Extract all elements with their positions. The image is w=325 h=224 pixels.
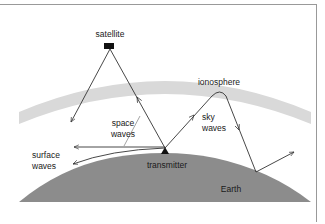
transmitter-label: transmitter [147, 160, 187, 170]
ionosphere-label: ionosphere [198, 77, 240, 87]
space-waves-label-2: waves [110, 129, 135, 139]
propagation-diagram: satellite ionosphere space waves sky wav… [0, 0, 325, 224]
sky-wave-bounce [256, 152, 294, 172]
sky-wave-down [226, 96, 256, 172]
surface-waves-label-1: surface [32, 150, 60, 160]
sky-waves-label-2: waves [201, 123, 226, 133]
satellite-icon [104, 43, 114, 49]
space-wave-down [71, 49, 110, 122]
ionosphere-band [19, 81, 311, 124]
sky-waves-label-1: sky [202, 112, 216, 122]
sky-wave-up [165, 96, 212, 148]
space-waves-label-1: space [112, 118, 135, 128]
earth-label: Earth [221, 184, 242, 194]
surface-waves-label-2: waves [31, 161, 56, 171]
satellite-label: satellite [96, 29, 125, 39]
